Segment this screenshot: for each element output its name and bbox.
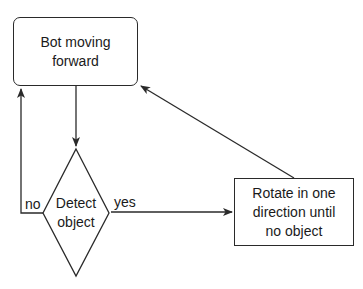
edge-label-yes: yes — [114, 194, 136, 210]
node-label-line: forward — [52, 52, 99, 71]
node-label-line: object — [46, 213, 106, 232]
node-label-line: Rotate in one — [252, 184, 335, 203]
edge-rotate-to-start — [141, 86, 294, 178]
node-rotate-until-no-object: Rotate in one direction until no object — [234, 178, 354, 246]
node-detect-object: Detect object — [46, 194, 106, 232]
edge-decision-no — [21, 89, 43, 213]
node-label-line: Bot moving — [40, 33, 110, 52]
node-label-line: Detect — [46, 194, 106, 213]
node-label-line: no object — [266, 222, 323, 241]
node-label-line: direction until — [253, 203, 336, 222]
edge-label-no: no — [25, 196, 41, 212]
node-bot-moving-forward: Bot moving forward — [13, 17, 138, 86]
flowchart-canvas: Bot moving forward Detect object Rotate … — [0, 0, 363, 289]
